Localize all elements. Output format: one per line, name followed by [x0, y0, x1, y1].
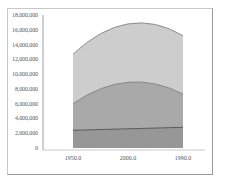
y-tick-label: 0: [0, 145, 38, 151]
y-tick-label: 12,000,000: [0, 56, 38, 62]
x-tick-label: 2000.0: [113, 155, 143, 161]
x-tick-label: 1990.0: [168, 155, 198, 161]
y-tick-label: 14,000,000: [0, 42, 38, 48]
area-layer-bottom: [73, 127, 183, 148]
y-tick-label: 8,000,000: [0, 86, 38, 92]
y-tick-label: 10,000,000: [0, 71, 38, 77]
y-tick-label: 6,000,000: [0, 101, 38, 107]
y-tick-label: 16,000,000: [0, 27, 38, 33]
x-tick-label: 1950.0: [58, 155, 88, 161]
y-tick-label: 18,000,000: [0, 12, 38, 18]
y-tick-label: 4,000,000: [0, 115, 38, 121]
y-tick-label: 2,000,000: [0, 130, 38, 136]
